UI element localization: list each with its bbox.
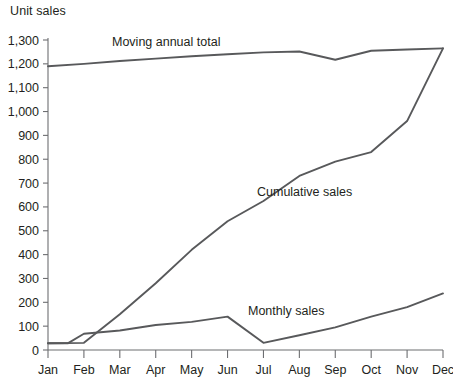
y-axis-tick-label: 900 [18, 129, 39, 143]
y-axis-tick-label: 200 [18, 296, 39, 310]
y-axis-tick-label: 800 [18, 153, 39, 167]
x-axis-tick-label: Mar [109, 363, 131, 377]
series-line-cumulative-sales [48, 48, 443, 343]
y-axis-tick-label: 0 [32, 344, 39, 358]
x-axis-tick-label: Feb [73, 363, 95, 377]
y-axis-tick-label: 400 [18, 248, 39, 262]
x-axis-tick-label: Oct [361, 363, 381, 377]
series-annotation-cumulative-sales: Cumulative sales [257, 185, 352, 199]
y-axis-tick-label: 500 [18, 224, 39, 238]
y-axis-tick-label: 100 [18, 320, 39, 334]
series-annotation-moving-annual-total: Moving annual total [112, 35, 220, 49]
x-axis-tick-label: Apr [146, 363, 165, 377]
y-axis-tick-label: 1,100 [8, 81, 39, 95]
x-axis-tick-label: Sep [324, 363, 346, 377]
x-axis-tick-label: Jun [217, 363, 237, 377]
y-axis-tick-label: 600 [18, 200, 39, 214]
x-axis-tick-label: Jan [38, 363, 58, 377]
y-axis-tick-label: 1,000 [8, 105, 39, 119]
x-axis-tick-label: Aug [288, 363, 310, 377]
chart-plot-area: 01002003004005006007008009001,0001,1001,… [0, 0, 453, 392]
x-axis-tick-label: May [180, 363, 204, 377]
series-annotation-monthly-sales: Monthly sales [248, 304, 324, 318]
series-line-moving-annual-total [48, 48, 443, 66]
y-axis-tick-label: 700 [18, 177, 39, 191]
unit-sales-line-chart: Unit sales 01002003004005006007008009001… [0, 0, 453, 392]
y-axis-tick-label: 1,300 [8, 34, 39, 48]
series-line-monthly-sales [48, 293, 443, 343]
x-axis-tick-label: Dec [432, 363, 453, 377]
x-axis-tick-label: Jul [255, 363, 271, 377]
x-axis-tick-label: Nov [396, 363, 419, 377]
y-axis-tick-label: 300 [18, 272, 39, 286]
y-axis-tick-label: 1,200 [8, 57, 39, 71]
